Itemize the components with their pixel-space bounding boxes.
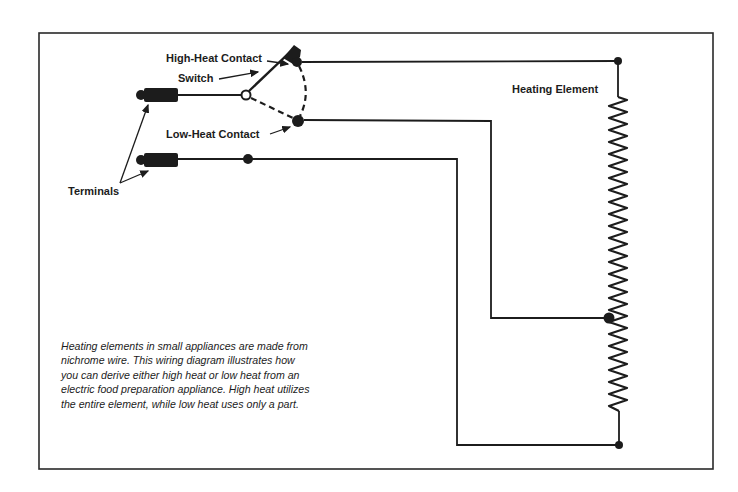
- label-heating-element: Heating Element: [512, 84, 598, 95]
- caption-line: nichrome wire. This wiring diagram illus…: [61, 353, 371, 367]
- wire-low-heat: [304, 120, 608, 318]
- heating-element-coil: [609, 97, 627, 411]
- terminal-upper-icon: [136, 88, 178, 102]
- caption-line: Heating elements in small appliances are…: [61, 339, 371, 353]
- caption-line: you can derive either high heat or low h…: [61, 368, 371, 382]
- figure-caption: Heating elements in small appliances are…: [61, 339, 371, 411]
- label-terminals: Terminals: [68, 186, 119, 197]
- wiring-diagram: [0, 0, 738, 492]
- node-lower-terminal-wire-icon: [243, 154, 253, 164]
- arrow-low-heat-icon: [270, 127, 290, 134]
- caption-line: the entire element, while low heat uses …: [61, 397, 371, 411]
- switch-pivot-icon: [242, 91, 251, 100]
- switch-low-position: [251, 98, 293, 118]
- caption-line: electric food preparation appliance. Hig…: [61, 382, 371, 396]
- arrow-switch-icon: [219, 72, 258, 79]
- high-heat-contact-icon: [292, 57, 302, 67]
- arrow-terminal-upper-icon: [120, 105, 148, 183]
- low-heat-contact-icon: [292, 115, 304, 127]
- terminal-lower-icon: [136, 153, 178, 167]
- label-high-heat-contact: High-Heat Contact: [166, 53, 262, 64]
- label-low-heat-contact: Low-Heat Contact: [166, 129, 260, 140]
- switch-swing-arc: [299, 66, 306, 116]
- label-switch: Switch: [178, 73, 213, 84]
- wire-high-heat: [302, 61, 618, 62]
